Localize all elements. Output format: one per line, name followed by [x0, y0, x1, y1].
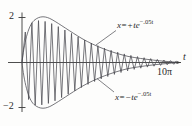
upper-envelope-equation-label: x=+te−.05t	[117, 21, 153, 30]
upper-eqn-exponent: −.05t	[140, 18, 154, 25]
lower-label-leader-line	[97, 79, 114, 93]
x-axis-arrowhead	[177, 61, 182, 64]
y-axis-top-tick-label: 2	[9, 11, 14, 21]
lower-envelope-equation-label: x=−te−.05t	[115, 93, 151, 102]
upper-label-leader-line	[96, 31, 116, 46]
plot-canvas	[0, 0, 192, 126]
lower-envelope-curve	[22, 63, 176, 109]
x-axis-name-label: t	[183, 52, 186, 62]
axes-group	[8, 13, 181, 113]
y-axis-bottom-tick-label: −2	[3, 101, 14, 111]
x-axis-end-tick-label: 10π	[157, 67, 172, 77]
damped-oscillation-figure: 2 −2 10π t x=+te−.05t x=−te−.05t	[0, 0, 192, 126]
lower-eqn-exponent: −.05t	[138, 90, 152, 97]
